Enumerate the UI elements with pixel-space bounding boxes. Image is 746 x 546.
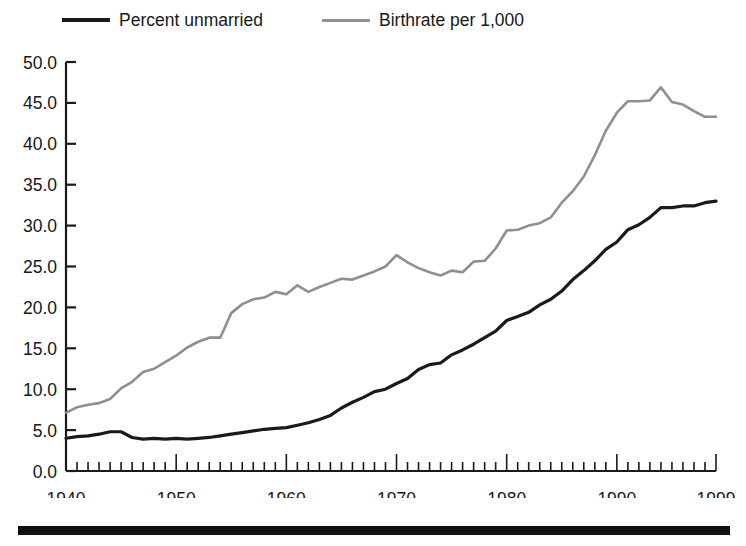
legend-label-series-0: Percent unmarried xyxy=(119,10,263,30)
y-axis-tick-label: 10.0 xyxy=(23,380,57,400)
chart-plot-area: 0.05.010.015.020.025.030.035.040.045.050… xyxy=(0,38,746,498)
series-line-1 xyxy=(66,87,716,413)
chart-figure: Percent unmarried Birthrate per 1,000 0.… xyxy=(0,0,746,546)
x-axis-tick-label: 1990 xyxy=(597,489,636,498)
x-axis-tick-label: 1980 xyxy=(487,489,526,498)
y-axis-tick-label: 50.0 xyxy=(23,53,57,73)
legend-line-swatch-series-0 xyxy=(62,18,110,22)
legend-label-series-1: Birthrate per 1,000 xyxy=(379,10,524,30)
x-axis-tick-label: 1940 xyxy=(47,489,86,498)
y-axis-tick-label: 25.0 xyxy=(23,257,57,277)
y-axis-tick-label: 30.0 xyxy=(23,216,57,236)
y-axis-tick-label: 40.0 xyxy=(23,134,57,154)
x-axis-tick-label: 1960 xyxy=(267,489,306,498)
y-axis-tick-label: 0.0 xyxy=(33,462,58,482)
series-line-0 xyxy=(66,201,716,439)
bottom-horizontal-rule xyxy=(18,526,730,535)
y-axis-tick-label: 5.0 xyxy=(33,421,58,441)
legend-item-percent-unmarried: Percent unmarried xyxy=(62,8,263,32)
y-axis-tick-label: 20.0 xyxy=(23,298,57,318)
y-axis-tick-label: 15.0 xyxy=(23,339,57,359)
y-axis-tick-label: 45.0 xyxy=(23,93,57,113)
chart-legend: Percent unmarried Birthrate per 1,000 xyxy=(0,8,746,38)
legend-item-birthrate: Birthrate per 1,000 xyxy=(322,8,524,32)
y-axis-tick-label: 35.0 xyxy=(23,175,57,195)
x-axis-tick-label: 1970 xyxy=(377,489,416,498)
x-axis-tick-label: 1950 xyxy=(157,489,196,498)
legend-line-swatch-series-1 xyxy=(322,19,370,22)
x-axis-tick-label: 1999 xyxy=(697,489,736,498)
